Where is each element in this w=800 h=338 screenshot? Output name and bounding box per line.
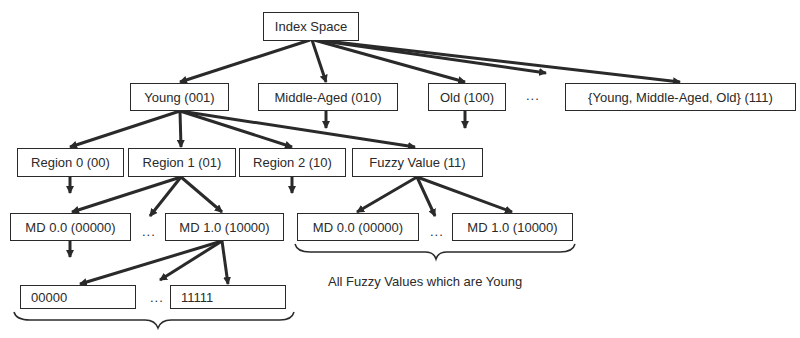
- fuzzy-values-caption: All Fuzzy Values which are Young: [328, 274, 522, 289]
- node-label: Index Space: [275, 19, 347, 34]
- node-label: MD 0.0 (00000): [25, 220, 115, 235]
- node-label: MD 1.0 (10000): [179, 220, 269, 235]
- node-label: MD 0.0 (00000): [313, 220, 403, 235]
- node-region-2: Region 2 (10): [239, 148, 346, 177]
- node-all-ages: {Young, Middle-Aged, Old} (111): [565, 83, 796, 111]
- node-label: 00000: [31, 290, 67, 305]
- node-label: Middle-Aged (010): [275, 90, 382, 105]
- node-label: Region 2 (10): [253, 155, 332, 170]
- node-md-1-region1: MD 1.0 (10000): [165, 213, 284, 241]
- node-md-1-fuzzy: MD 1.0 (10000): [452, 213, 573, 241]
- node-label: {Young, Middle-Aged, Old} (111): [588, 90, 773, 105]
- node-label: 11111: [181, 290, 213, 305]
- node-label: Region 1 (01): [143, 155, 222, 170]
- ellipsis: ...: [430, 224, 444, 239]
- node-label: Fuzzy Value (11): [369, 155, 465, 170]
- node-label: Region 0 (00): [31, 155, 110, 170]
- ellipsis: ...: [142, 224, 156, 239]
- node-bits-11111: 11111: [170, 285, 286, 309]
- node-young: Young (001): [130, 83, 229, 111]
- node-old: Old (100): [428, 83, 506, 111]
- node-label: Young (001): [144, 90, 214, 105]
- node-md-0-region1: MD 0.0 (00000): [10, 213, 131, 241]
- node-region-1: Region 1 (01): [128, 148, 236, 177]
- ellipsis: ...: [150, 290, 164, 305]
- node-index-space: Index Space: [263, 12, 359, 41]
- node-bits-00000: 00000: [20, 285, 136, 309]
- node-label: MD 1.0 (10000): [467, 220, 557, 235]
- node-label: Old (100): [440, 90, 494, 105]
- node-region-0: Region 0 (00): [17, 148, 124, 177]
- node-md-0-fuzzy: MD 0.0 (00000): [297, 213, 419, 241]
- node-middle-aged: Middle-Aged (010): [258, 83, 398, 111]
- ellipsis: ...: [526, 88, 540, 103]
- node-fuzzy-value: Fuzzy Value (11): [352, 148, 483, 177]
